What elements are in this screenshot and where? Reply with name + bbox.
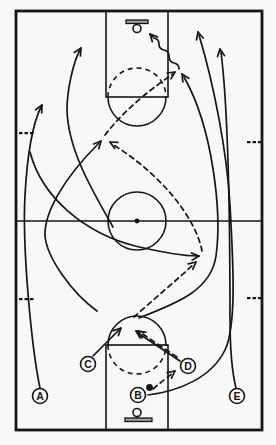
player-E-label: E — [233, 390, 240, 402]
pass-to-high-post-arrowhead — [167, 72, 175, 73]
pass-up-to-left-elbow-line — [112, 144, 202, 251]
bottom-key-ft-circle-bottom — [108, 345, 166, 374]
play-diagram-page: ABCDE — [0, 0, 276, 445]
top-basket-rim — [133, 25, 141, 33]
top-key-ft-circle-top — [108, 68, 166, 97]
basketball-court-diagram: ABCDE — [0, 0, 276, 445]
player-B-label: B — [134, 389, 142, 401]
hash-mark — [19, 132, 23, 134]
bottom-basket-rim — [133, 409, 141, 417]
hook-to-right-elbow-arrowhead — [182, 74, 183, 82]
ball — [146, 384, 153, 391]
top-basket-backboard — [126, 20, 148, 24]
hook-to-right-elbow-line — [139, 77, 218, 318]
center-dot — [135, 219, 140, 224]
hash-mark — [25, 132, 29, 134]
hash-mark — [25, 298, 29, 300]
cut-A-up-left-side-line — [24, 107, 41, 388]
hash-mark — [253, 141, 257, 143]
run-B-right-sideline-arrowhead — [196, 32, 198, 40]
dribble-shot-to-basket-line — [151, 35, 179, 69]
hash-mark — [30, 298, 34, 300]
hash-mark — [258, 141, 262, 143]
hash-mark — [247, 141, 251, 143]
player-C-label: C — [84, 358, 92, 370]
hash-mark — [258, 297, 262, 299]
bottom-basket-backboard — [125, 418, 152, 422]
pass-spot-to-right-block-line — [134, 264, 194, 317]
cut-D-to-spot-line — [138, 333, 180, 361]
hash-mark — [19, 298, 23, 300]
player-D-label: D — [184, 360, 192, 372]
hash-mark — [253, 297, 257, 299]
cut-E-up-right-side-arrowhead — [218, 49, 220, 57]
hash-mark — [247, 297, 251, 299]
pass-B-to-D-line — [153, 373, 173, 389]
player-A-label: A — [36, 390, 44, 402]
